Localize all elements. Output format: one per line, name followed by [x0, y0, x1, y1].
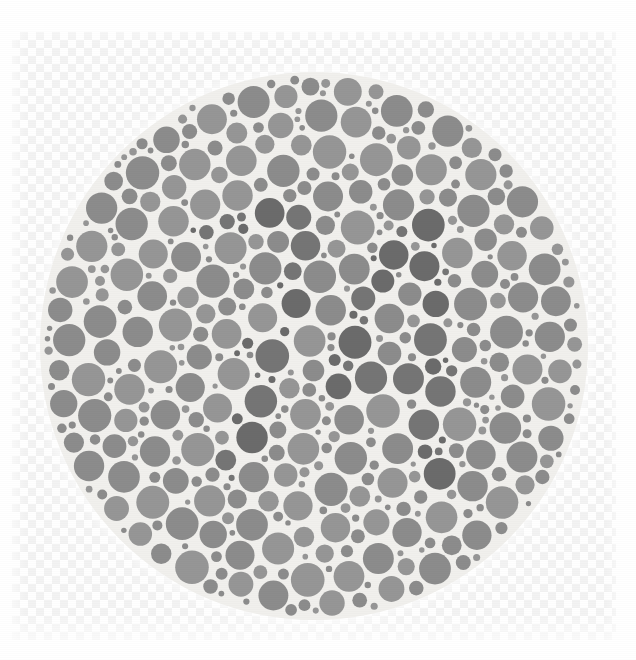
background-dot — [47, 326, 52, 331]
background-dot — [314, 461, 323, 470]
background-dot — [574, 303, 580, 309]
figure-dot — [414, 323, 447, 356]
background-dot — [366, 101, 372, 107]
background-dot — [222, 180, 252, 210]
figure-dot — [434, 279, 441, 286]
figure-dot — [237, 213, 246, 222]
background-dot — [53, 324, 85, 356]
background-dot — [321, 443, 332, 454]
background-dot — [564, 413, 575, 424]
background-dot — [471, 261, 498, 288]
background-dot — [411, 121, 425, 135]
figure-dot — [424, 458, 456, 490]
background-dot — [45, 336, 50, 341]
background-dot — [316, 544, 334, 562]
background-dot — [567, 337, 582, 352]
background-dot — [108, 461, 140, 493]
background-dot — [392, 518, 421, 547]
background-dot — [56, 266, 88, 298]
background-dot — [182, 543, 188, 549]
figure-dot — [371, 255, 377, 261]
background-dot — [229, 572, 254, 597]
background-dot — [366, 437, 376, 447]
background-dot — [136, 486, 169, 519]
figure-dot — [242, 338, 253, 349]
background-dot — [415, 511, 421, 517]
background-dot — [128, 436, 138, 446]
figure-dot — [280, 327, 289, 336]
background-dot — [149, 472, 160, 483]
background-dot — [230, 110, 237, 117]
background-dot — [203, 393, 232, 422]
background-dot — [363, 543, 394, 574]
figure-dot — [268, 376, 275, 383]
background-dot — [372, 126, 385, 139]
background-dot — [299, 467, 309, 477]
background-dot — [275, 413, 281, 419]
background-dot — [49, 360, 69, 380]
background-dot — [495, 405, 501, 411]
background-dot — [541, 354, 546, 359]
background-dot — [492, 467, 507, 482]
figure-dot — [229, 475, 235, 481]
background-dot — [262, 532, 294, 564]
background-dot — [218, 358, 250, 390]
background-dot — [363, 509, 389, 535]
background-dot — [253, 565, 267, 579]
background-dot — [526, 329, 533, 336]
background-dot — [181, 433, 214, 466]
background-dot — [465, 159, 496, 190]
background-dot — [114, 409, 137, 432]
background-dot — [190, 190, 220, 220]
background-dot — [442, 238, 473, 269]
background-dot — [377, 229, 383, 235]
figure-dot — [234, 350, 240, 356]
background-dot — [159, 308, 192, 341]
background-dot — [426, 501, 458, 533]
background-dot — [295, 108, 301, 114]
background-dot — [480, 405, 489, 414]
background-dot — [104, 172, 123, 191]
background-dot — [329, 431, 340, 442]
background-dot — [238, 86, 270, 118]
background-dot — [261, 455, 268, 462]
background-dot — [481, 358, 488, 365]
background-dot — [175, 550, 209, 584]
background-dot — [530, 216, 554, 240]
ishihara-plate — [40, 72, 588, 620]
background-dot — [215, 431, 229, 445]
background-dot — [191, 476, 201, 486]
figure-dot — [396, 226, 407, 237]
figure-dot — [351, 286, 375, 310]
background-dot — [182, 124, 197, 139]
background-dot — [279, 378, 300, 399]
background-dot — [288, 369, 294, 375]
background-dot — [305, 100, 337, 132]
background-dot — [302, 383, 316, 397]
background-dot — [48, 383, 55, 390]
background-dot — [448, 216, 457, 225]
background-dot — [443, 318, 452, 327]
background-dot — [123, 317, 153, 347]
figure-dot — [284, 262, 302, 280]
figure-dot — [236, 422, 267, 453]
background-dot — [283, 491, 312, 520]
background-dot — [507, 186, 538, 217]
figure-dot — [418, 444, 433, 459]
dot-mosaic — [40, 72, 588, 620]
background-dot — [137, 281, 167, 311]
background-dot — [321, 253, 327, 259]
figure-dot — [220, 214, 235, 229]
background-dot — [535, 322, 565, 352]
background-dot — [562, 259, 569, 266]
background-dot — [269, 445, 285, 461]
background-dot — [320, 90, 326, 96]
background-dot — [268, 113, 293, 138]
background-dot — [447, 490, 456, 499]
background-dot — [222, 512, 234, 524]
background-dot — [375, 304, 405, 334]
background-dot — [443, 408, 476, 441]
background-dot — [144, 350, 177, 383]
background-dot — [378, 342, 402, 366]
background-dot — [132, 454, 138, 460]
